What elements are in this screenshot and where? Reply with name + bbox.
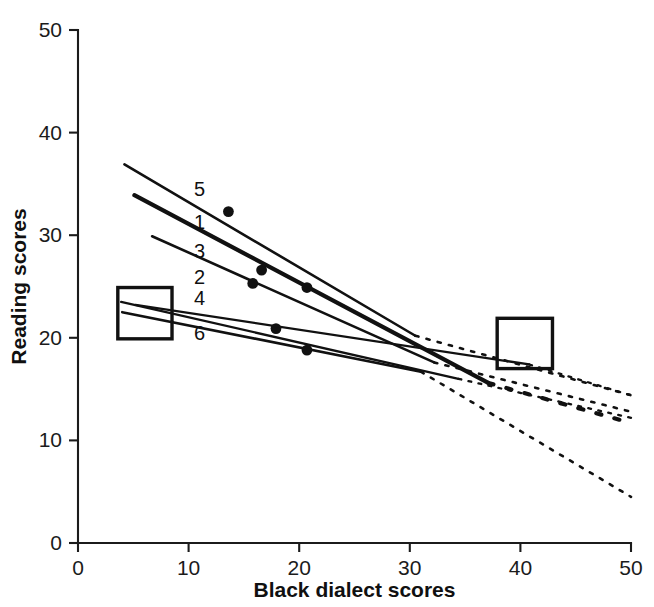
series-1-point-1 <box>256 265 267 276</box>
y-tick-label-0: 0 <box>50 531 62 554</box>
series-label-5: 5 <box>194 178 205 200</box>
series-6-point-1 <box>302 345 313 356</box>
axes: 0102030405001020304050 <box>39 18 643 579</box>
x-tick-label-30: 30 <box>398 556 421 579</box>
y-tick-label-20: 20 <box>39 326 62 349</box>
x-tick-label-20: 20 <box>288 556 311 579</box>
series-label-4: 4 <box>194 287 205 309</box>
series-6-dotted-extension <box>421 372 631 497</box>
series-label-3: 3 <box>194 240 205 262</box>
series-5-point-1 <box>223 206 234 217</box>
series-3-point-1 <box>247 278 258 289</box>
y-axis-title: Reading scores <box>7 208 30 364</box>
x-tick-label-50: 50 <box>619 556 642 579</box>
chart-container: 0102030405001020304050 513246 Black dial… <box>0 0 654 607</box>
y-tick-label-40: 40 <box>39 121 62 144</box>
x-tick-label-0: 0 <box>72 556 84 579</box>
y-tick-label-10: 10 <box>39 428 62 451</box>
x-axis-title: Black dialect scores <box>254 578 456 601</box>
series-label-6: 6 <box>194 322 205 344</box>
y-tick-label-50: 50 <box>39 18 62 41</box>
scatter-line-plot: 0102030405001020304050 513246 Black dial… <box>0 0 654 607</box>
y-tick-label-30: 30 <box>39 223 62 246</box>
x-tick-label-40: 40 <box>509 556 532 579</box>
x-tick-label-10: 10 <box>177 556 200 579</box>
series-1-point-2 <box>302 282 313 293</box>
series-label-2: 2 <box>194 266 205 288</box>
series-label-1: 1 <box>194 211 205 233</box>
